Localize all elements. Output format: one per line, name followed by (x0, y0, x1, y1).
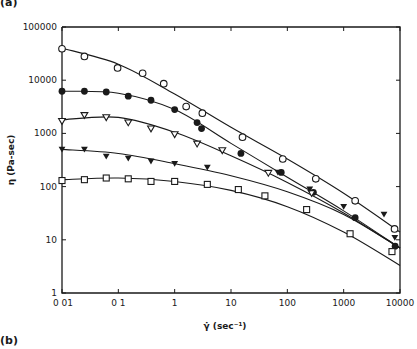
data-point-open-circles (81, 53, 88, 60)
data-point-open-circles (391, 226, 398, 233)
fit-curve-filled-circles (62, 91, 400, 248)
x-tick-label: 10 (225, 298, 237, 308)
data-point-squares (59, 178, 65, 184)
fit-curve-open-circles (62, 48, 400, 232)
data-point-filled-circles (59, 88, 66, 95)
x-tick-label: 1000 (332, 298, 355, 308)
viscosity-chart: 0 010 1110100100010000110100100010000100… (0, 0, 417, 349)
data-point-squares (103, 175, 109, 181)
axis-frame (62, 27, 400, 293)
data-point-open-triangles (103, 115, 110, 121)
data-point-open-triangles (59, 119, 66, 125)
data-point-squares (125, 176, 131, 182)
data-point-filled-triangles (125, 156, 132, 162)
x-tick-label: 0 01 (53, 298, 73, 308)
data-point-open-circles (279, 156, 286, 163)
data-point-open-triangles (148, 126, 155, 132)
data-point-squares (347, 231, 353, 237)
data-point-open-triangles (125, 120, 132, 126)
data-point-open-circles (352, 198, 359, 205)
data-point-filled-triangles (381, 212, 388, 218)
y-tick-label: 10000 (28, 75, 57, 85)
x-tick-label: 1 (172, 298, 178, 308)
y-tick-label: 1000 (34, 128, 57, 138)
data-point-open-circles (59, 45, 66, 52)
data-point-open-triangles (171, 132, 178, 138)
data-point-open-circles (312, 176, 319, 183)
x-tick-label: 10000 (386, 298, 415, 308)
x-tick-label: 100 (279, 298, 296, 308)
data-point-filled-circles (103, 89, 110, 96)
y-tick-label: 1 (51, 288, 57, 298)
data-point-squares (172, 178, 178, 184)
data-point-open-circles (239, 134, 246, 141)
data-point-open-triangles (194, 141, 201, 147)
data-point-squares (389, 249, 395, 255)
y-tick-label: 100 (40, 182, 57, 192)
data-point-filled-circles (148, 97, 155, 104)
data-point-filled-triangles (103, 154, 110, 160)
fit-curve-squares (62, 178, 400, 265)
data-point-filled-circles (171, 106, 178, 113)
data-point-filled-circles (194, 119, 201, 126)
data-points (59, 45, 399, 254)
data-point-filled-circles (198, 125, 205, 132)
data-point-squares (148, 178, 154, 184)
y-tick-label: 100000 (23, 22, 58, 32)
y-axis-title: η (Pa-sec) (6, 135, 16, 186)
data-point-squares (235, 187, 241, 193)
plot-axes (62, 27, 400, 293)
data-point-open-circles (114, 65, 121, 72)
data-point-squares (262, 193, 268, 199)
data-point-filled-circles (352, 214, 359, 221)
y-tick-label: 10 (46, 235, 58, 245)
fit-curve-open-triangles (62, 117, 400, 248)
data-point-filled-circles (81, 88, 88, 95)
data-point-filled-circles (125, 93, 132, 100)
data-point-open-circles (139, 70, 146, 77)
data-point-open-circles (183, 103, 190, 110)
data-point-squares (81, 177, 87, 183)
data-point-squares (204, 181, 210, 187)
data-point-open-triangles (265, 170, 272, 176)
x-axis-title: γ̇ (sec⁻¹) (204, 321, 247, 331)
x-tick-label: 0 1 (111, 298, 125, 308)
data-point-filled-triangles (81, 147, 88, 153)
data-point-squares (304, 207, 310, 213)
data-point-filled-circles (238, 150, 245, 157)
data-point-open-circles (160, 80, 167, 87)
axis-labels: 0 010 1110100100010000110100100010000100… (6, 22, 415, 331)
data-point-open-circles (199, 110, 206, 117)
data-point-filled-triangles (148, 159, 155, 165)
